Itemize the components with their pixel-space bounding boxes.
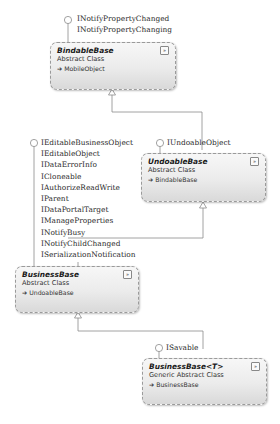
expand-chevron-icon[interactable]: » [250,157,259,166]
class-base: ➔MobileObject [57,64,169,73]
class-base: ➔UndoableBase [22,288,132,297]
interface-label: INotifyPropertyChanged [77,13,172,24]
interface-label: ISerializationNotification [41,249,136,260]
expand-chevron-icon[interactable]: » [251,362,260,371]
interface-label: IUndoableObject [167,137,231,148]
interface-label: INotifyPropertyChanging [77,24,172,35]
interfaces-undoable: IUndoableObject [167,137,231,148]
interface-label: IParent [41,193,136,204]
class-base: ➔BusinessBase [149,380,260,389]
interfaces-businessT: ISavable [166,342,198,353]
interface-label: IDataErrorInfo [41,159,136,170]
class-base: ➔BindableBase [148,175,259,184]
interface-label: IAuthorizeReadWrite [41,182,136,193]
class-box-bindablebase[interactable]: BindableBase Abstract Class ➔MobileObjec… [50,42,176,90]
class-kind: Abstract Class [148,166,259,175]
class-diagram: INotifyPropertyChanged INotifyPropertyCh… [0,0,280,424]
expand-chevron-icon[interactable]: » [123,270,132,279]
class-kind: Generic Abstract Class [149,371,260,380]
interface-label: ISavable [166,342,198,353]
interfaces-bindable: INotifyPropertyChanged INotifyPropertyCh… [77,13,172,35]
expand-chevron-icon[interactable]: » [160,46,169,55]
interface-label: IEditableObject [41,148,136,159]
interface-label: IEditableBusinessObject [41,137,136,148]
class-name: BusinessBase [22,270,132,279]
class-name: BusinessBase<T> [149,362,260,371]
inherits-arrow-icon: ➔ [22,289,27,296]
interface-label: INotifyChildChanged [41,238,136,249]
inherits-arrow-icon: ➔ [148,176,153,183]
inherits-arrow-icon: ➔ [57,65,62,72]
interface-label: IDataPortalTarget [41,204,136,215]
class-kind: Abstract Class [22,279,132,288]
class-kind: Abstract Class [57,55,169,64]
interface-label: ICloneable [41,171,136,182]
class-name: BindableBase [57,46,169,55]
class-box-businessbase[interactable]: BusinessBase Abstract Class ➔UndoableBas… [15,266,139,313]
class-box-undoablebase[interactable]: UndoableBase Abstract Class ➔BindableBas… [141,153,266,202]
interfaces-business: IEditableBusinessObject IEditableObject … [41,137,136,260]
interface-label: IManageProperties [41,215,136,226]
interface-label: INotifyBusy [41,227,136,238]
class-box-businessbase-t[interactable]: BusinessBase<T> Generic Abstract Class ➔… [142,358,267,405]
class-name: UndoableBase [148,157,259,166]
inherits-arrow-icon: ➔ [149,381,154,388]
